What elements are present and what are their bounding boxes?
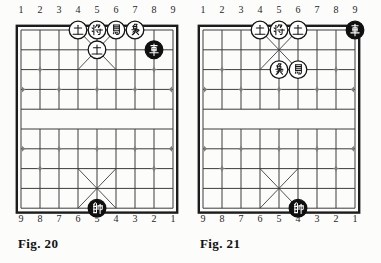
point-marker <box>333 165 340 172</box>
point-marker <box>94 145 101 152</box>
file-number: 6 <box>296 4 301 15</box>
point-marker <box>219 165 226 172</box>
piece-general-solid <box>88 199 106 217</box>
file-number: 8 <box>38 213 43 224</box>
file-number: 5 <box>277 4 282 15</box>
file-number: 2 <box>38 4 43 15</box>
piece-advisor-outline <box>251 21 269 39</box>
point-marker <box>219 66 226 73</box>
point-marker <box>238 86 245 93</box>
scanned-figure-page: 123456789987654321 123456789987654321 Fi… <box>0 0 381 263</box>
file-number: 2 <box>152 213 157 224</box>
piece-advisor-outline <box>289 21 307 39</box>
point-marker <box>22 146 25 152</box>
point-marker <box>238 145 245 152</box>
file-number: 7 <box>239 213 244 224</box>
file-number: 9 <box>353 4 358 15</box>
file-number: 9 <box>201 213 206 224</box>
file-number: 2 <box>220 4 225 15</box>
file-number: 8 <box>220 213 225 224</box>
piece-elephant-outline <box>126 21 144 39</box>
point-marker <box>132 145 139 152</box>
file-numbers-top: 123456789 <box>19 4 176 15</box>
point-marker <box>169 86 172 92</box>
point-marker <box>204 86 207 92</box>
file-number: 6 <box>76 213 81 224</box>
file-number: 1 <box>353 213 358 224</box>
file-number: 8 <box>152 4 157 15</box>
file-number: 6 <box>258 213 263 224</box>
file-number: 6 <box>114 4 119 15</box>
point-marker <box>56 86 63 93</box>
file-numbers-bottom: 987654321 <box>201 213 358 224</box>
file-number: 4 <box>76 4 81 15</box>
pieces <box>251 21 364 217</box>
point-marker <box>351 86 354 92</box>
file-number: 3 <box>239 4 244 15</box>
file-numbers-top: 123456789 <box>201 4 358 15</box>
file-number: 7 <box>57 213 62 224</box>
point-marker <box>169 146 172 152</box>
file-number: 8 <box>334 4 339 15</box>
point-marker <box>37 66 44 73</box>
xiangqi-board-fig-20: 123456789987654321 <box>5 0 195 235</box>
file-number: 2 <box>334 213 339 224</box>
piece-chariot-solid <box>145 41 163 59</box>
file-number: 1 <box>201 4 206 15</box>
point-marker <box>37 165 44 172</box>
file-number: 4 <box>258 4 263 15</box>
point-marker <box>314 86 321 93</box>
piece-advisor-outline <box>69 21 87 39</box>
xiangqi-board-fig-21: 123456789987654321 <box>187 0 377 235</box>
point-marker <box>151 66 158 73</box>
point-marker <box>94 86 101 93</box>
file-number: 3 <box>57 4 62 15</box>
caption-fig-21: Fig. 21 <box>200 236 240 252</box>
file-number: 5 <box>95 4 100 15</box>
point-marker <box>151 165 158 172</box>
piece-advisor-outline <box>88 41 106 59</box>
piece-elephant-outline <box>270 61 288 79</box>
piece-horse-outline <box>289 61 307 79</box>
point-marker <box>56 145 63 152</box>
point-marker <box>276 86 283 93</box>
caption-fig-20: Fig. 20 <box>18 236 58 252</box>
piece-chariot-solid <box>346 21 364 39</box>
file-number: 5 <box>277 213 282 224</box>
file-number: 9 <box>171 4 176 15</box>
file-number: 3 <box>133 213 138 224</box>
piece-horse-outline <box>107 21 125 39</box>
point-marker <box>351 146 354 152</box>
file-number: 9 <box>19 213 24 224</box>
file-number: 7 <box>133 4 138 15</box>
point-marker <box>314 145 321 152</box>
point-marker <box>132 86 139 93</box>
point-marker <box>276 145 283 152</box>
file-number: 4 <box>114 213 119 224</box>
piece-general-outline <box>88 21 106 39</box>
file-number: 7 <box>315 4 320 15</box>
point-marker <box>204 146 207 152</box>
point-marker <box>22 86 25 92</box>
file-number: 3 <box>315 213 320 224</box>
file-number: 1 <box>171 213 176 224</box>
piece-general-outline <box>270 21 288 39</box>
point-marker <box>333 66 340 73</box>
file-number: 1 <box>19 4 24 15</box>
piece-general-solid <box>289 199 307 217</box>
board-grid <box>199 26 359 213</box>
